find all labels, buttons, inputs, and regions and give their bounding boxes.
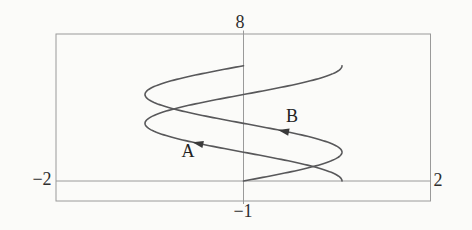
curve-label-A: A: [178, 141, 198, 161]
curve-label-B: B: [282, 106, 302, 126]
xmax-tick-label: 2: [429, 170, 447, 190]
calculator-window-figure: 8 −1 −2 2 B A: [0, 0, 472, 230]
xmin-tick-label: −2: [29, 169, 55, 189]
ymin-tick-label: −1: [229, 201, 257, 221]
ymax-tick-label: 8: [227, 12, 253, 32]
figure-svg: [0, 0, 472, 230]
